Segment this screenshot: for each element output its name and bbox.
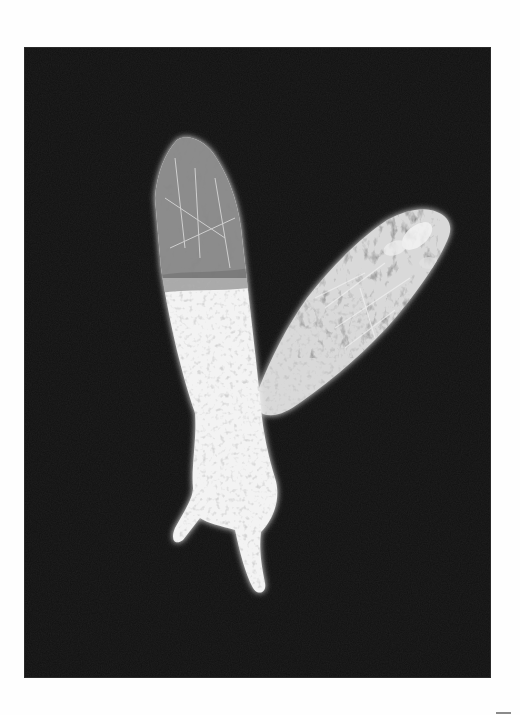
photogram-artwork <box>25 48 490 677</box>
photogram-print <box>25 48 490 677</box>
paper-background <box>0 0 520 715</box>
corner-mark <box>496 712 511 714</box>
